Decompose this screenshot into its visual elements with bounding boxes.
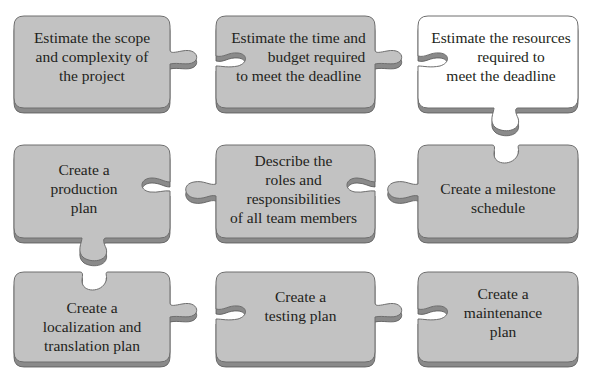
puzzle-diagram: Estimate the scope and complexity of the…: [0, 0, 590, 378]
piece-scope-line-2: and complexity of: [36, 47, 149, 66]
piece-production-plan: Create a production plan: [14, 145, 154, 231]
piece-maintenance-line-2: maintenance: [464, 303, 542, 322]
piece-resources-line-1: Estimate the resources: [431, 28, 570, 47]
piece-localization-line-3: translation plan: [44, 336, 140, 355]
piece-resources-line-2: required to: [457, 47, 545, 66]
piece-roles-line-3: responsibilities: [247, 189, 341, 208]
piece-time-budget-line-1: Estimate the time and: [231, 28, 366, 47]
piece-time-budget-line-3: to meet the deadline: [236, 66, 361, 85]
piece-milestone-line-1: Create a milestone: [440, 179, 555, 198]
piece-localization-line-1: Create a: [66, 298, 117, 317]
piece-maintenance: Create a maintenance plan: [428, 274, 578, 350]
piece-maintenance-line-3: plan: [490, 322, 517, 341]
piece-testing: Create a testing plan: [226, 276, 375, 336]
piece-production-plan-line-2: production: [50, 179, 117, 198]
piece-roles-line-4: of all team members: [230, 208, 357, 227]
piece-maintenance-line-1: Create a: [477, 284, 528, 303]
piece-localization-line-2: localization and: [43, 317, 142, 336]
piece-production-plan-line-1: Create a: [58, 160, 109, 179]
piece-testing-line-2: testing plan: [265, 306, 337, 325]
piece-milestone: Create a milestone schedule: [418, 160, 578, 236]
piece-scope-line-1: Estimate the scope: [34, 28, 150, 47]
piece-roles: Describe the roles and responsibilities …: [216, 145, 371, 233]
piece-milestone-line-2: schedule: [471, 198, 525, 217]
piece-time-budget-line-2: budget required: [232, 47, 366, 66]
piece-roles-line-2: roles and: [265, 170, 321, 189]
piece-roles-line-1: Describe the: [255, 151, 333, 170]
piece-resources: Estimate the resources required to meet …: [424, 16, 578, 96]
piece-localization: Create a localization and translation pl…: [14, 290, 170, 362]
piece-time-budget: Estimate the time and budget required to…: [222, 16, 375, 96]
piece-scope: Estimate the scope and complexity of the…: [14, 16, 170, 96]
piece-resources-line-3: meet the deadline: [446, 66, 555, 85]
piece-testing-line-1: Create a: [275, 287, 326, 306]
piece-production-plan-line-3: plan: [71, 198, 98, 217]
piece-scope-line-3: the project: [59, 66, 125, 85]
